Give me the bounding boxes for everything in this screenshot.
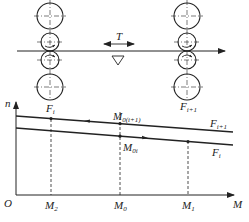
point-fi — [49, 117, 52, 120]
tick-m0: M0 — [113, 199, 127, 213]
tick-m1: M1 — [181, 199, 195, 213]
point-m0-i — [118, 135, 121, 138]
y-axis-label: n — [5, 97, 11, 109]
tick-m2: M2 — [44, 199, 58, 213]
origin-label: O — [4, 197, 12, 209]
diagram-canvas: T n M O Fi M0(i+1) M0i Fi+1 Fi+1 Fi M2 M… — [0, 0, 249, 222]
label-fi-point: Fi — [45, 102, 55, 116]
left-centerlines — [34, 0, 66, 100]
label-m0-i1: M0(i+1) — [112, 110, 141, 124]
label-fi1-point: Fi+1 — [179, 100, 197, 114]
x-axis-label: M — [232, 198, 243, 210]
left-roll-stand — [34, 0, 66, 100]
left-top-backup-roll — [37, 3, 63, 29]
point-m0-i1 — [118, 122, 121, 125]
right-top-backup-roll — [174, 3, 200, 29]
upper-line-direction-arrow — [84, 120, 90, 123]
upper-line-label: Fi+1 — [209, 117, 227, 131]
right-centerlines — [171, 0, 203, 100]
lower-line-label: Fi — [211, 146, 221, 160]
point-m1 — [186, 140, 189, 143]
tension-label: T — [116, 30, 123, 42]
level-marker-triangle — [112, 56, 124, 65]
label-m0-i: M0i — [122, 141, 138, 155]
right-roll-stand — [171, 0, 203, 100]
